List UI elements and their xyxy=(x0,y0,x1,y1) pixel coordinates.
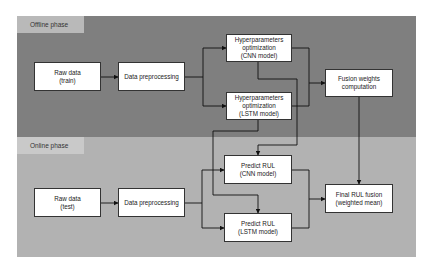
raw-data-train-node: Raw data (train) xyxy=(34,62,101,91)
hyperparameters-lstm-node: Hyperparameters optimization (LSTM model… xyxy=(226,92,292,120)
final-rul-fusion-node: Final RUL fusion (weighted mean) xyxy=(325,184,393,213)
raw-data-test-node: Raw data (test) xyxy=(34,188,101,217)
data-preprocessing-online-node: Data preprocessing xyxy=(118,188,185,217)
online-phase-label: Online phase xyxy=(17,137,84,154)
offline-phase-label: Offline phase xyxy=(17,16,84,33)
data-preprocessing-offline-node: Data preprocessing xyxy=(118,62,185,91)
predict-rul-cnn-node: Predict RUL (CNN model) xyxy=(224,155,292,184)
fusion-weights-node: Fusion weights computation xyxy=(325,69,393,97)
hyperparameters-cnn-node: Hyperparameters optimization (CNN model) xyxy=(226,34,292,62)
predict-rul-lstm-node: Predict RUL (LSTM model) xyxy=(224,213,292,242)
